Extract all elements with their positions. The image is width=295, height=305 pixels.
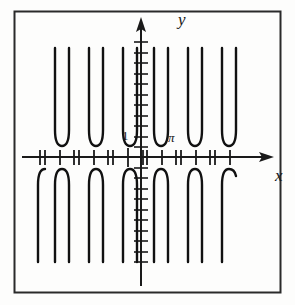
y-value-one-label: 1 xyxy=(122,129,129,142)
x-axis-label: x xyxy=(275,167,283,184)
figure-container: y x 1 π xyxy=(0,0,295,305)
y-axis-label: y xyxy=(178,11,186,28)
graph-canvas xyxy=(0,0,295,305)
x-value-pi-label: π xyxy=(168,131,175,144)
